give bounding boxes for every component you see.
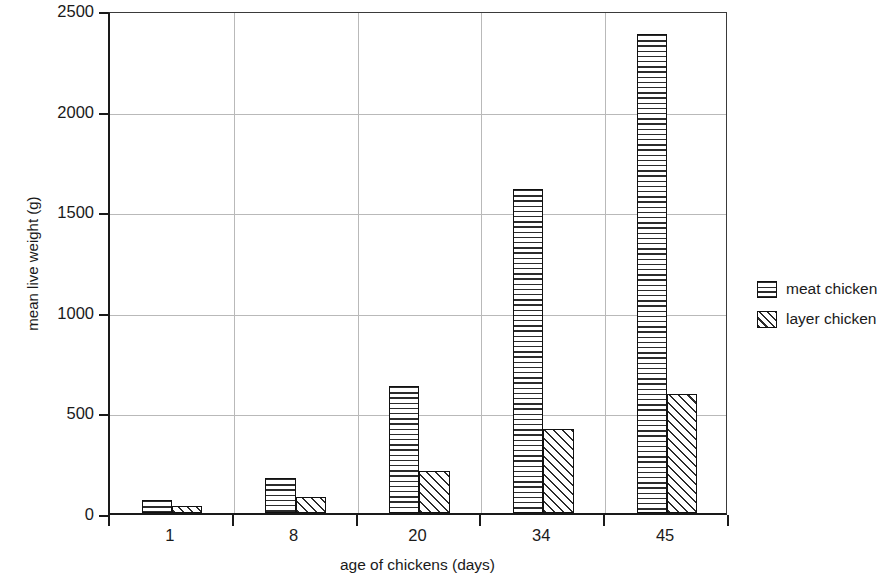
y-axis-tick-mark xyxy=(99,515,108,517)
x-axis-tick-label: 8 xyxy=(232,526,356,545)
bar-layer-chicken xyxy=(419,471,449,513)
x-axis-tick-mark xyxy=(727,515,729,526)
bar-meat-chicken xyxy=(637,34,667,513)
bar-meat-chicken xyxy=(265,478,295,513)
bar-group xyxy=(481,13,605,513)
y-axis-tick-label: 2500 xyxy=(32,3,94,20)
y-axis-tick-label: 1500 xyxy=(32,204,94,221)
legend-swatch-layer-chicken xyxy=(757,311,777,328)
x-axis-tick-mark xyxy=(356,515,358,526)
bar-meat-chicken xyxy=(513,189,543,513)
y-axis-tick-mark xyxy=(99,414,108,416)
x-axis-tick-label: 1 xyxy=(108,526,232,545)
bar-group xyxy=(234,13,358,513)
bar-meat-chicken xyxy=(142,500,172,513)
bar-layer-chicken xyxy=(172,506,202,513)
y-axis-tick-mark xyxy=(99,213,108,215)
legend-label: meat chicken xyxy=(786,280,877,298)
x-axis-tick-mark xyxy=(603,515,605,526)
y-axis-tick-mark xyxy=(99,12,108,14)
bar-group xyxy=(110,13,234,513)
y-axis-tick-label: 1000 xyxy=(32,305,94,322)
x-axis-tick-label: 45 xyxy=(603,526,727,545)
x-axis-title: age of chickens (days) xyxy=(108,556,727,574)
bar-group xyxy=(605,13,729,513)
legend-label: layer chicken xyxy=(786,310,876,328)
x-axis-tick-label: 34 xyxy=(479,526,603,545)
bar-chart: mean live weight (g) 0500100015002000250… xyxy=(0,0,893,585)
y-axis-tick-label: 0 xyxy=(32,506,94,523)
bar-meat-chicken xyxy=(389,386,419,513)
x-axis-tick-mark xyxy=(108,515,110,526)
y-axis-tick-label: 500 xyxy=(32,405,94,422)
y-axis-tick-labels: 05001000150020002500 xyxy=(32,0,94,585)
legend-item: meat chicken xyxy=(757,278,877,300)
y-axis-tick-mark xyxy=(99,314,108,316)
x-axis-tick-mark xyxy=(232,515,234,526)
y-axis-tick-label: 2000 xyxy=(32,104,94,121)
plot-area xyxy=(108,12,727,515)
legend-swatch-meat-chicken xyxy=(757,281,777,298)
x-axis-tick-mark xyxy=(479,515,481,526)
legend: meat chickenlayer chicken xyxy=(757,278,877,338)
bar-layer-chicken xyxy=(667,394,697,513)
y-axis-tick-mark xyxy=(99,113,108,115)
x-axis-tick-label: 20 xyxy=(356,526,480,545)
legend-item: layer chicken xyxy=(757,308,877,330)
bar-layer-chicken xyxy=(543,429,573,514)
bar-group xyxy=(358,13,482,513)
bar-layer-chicken xyxy=(296,497,326,513)
